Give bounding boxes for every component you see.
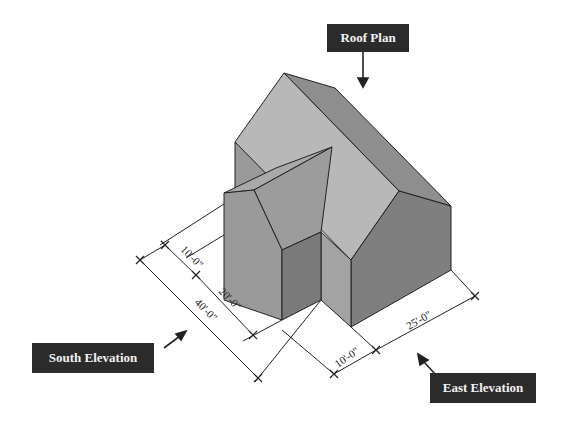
dim-overall-south: 40'-0" bbox=[193, 296, 220, 323]
south-elevation-arrow bbox=[164, 336, 180, 348]
dim-wing-depth: 10'-0" bbox=[179, 243, 206, 270]
dim-wing-east: 10'-0" bbox=[332, 345, 361, 370]
arrow-up-left-icon bbox=[418, 354, 428, 365]
arrow-down-icon bbox=[358, 78, 368, 87]
south-elevation-label: South Elevation bbox=[32, 343, 154, 373]
isometric-diagram: 10'-0" 20'-0" 40'-0" 10'-0" 25'-0" Roof … bbox=[0, 0, 563, 421]
east-elevation-label: East Elevation bbox=[430, 373, 536, 403]
roof-plan-label: Roof Plan bbox=[327, 24, 409, 52]
dim-main-east: 25'-0" bbox=[404, 308, 433, 332]
